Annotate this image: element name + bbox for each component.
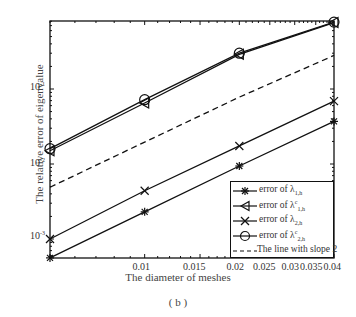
star-marker-icon	[233, 185, 259, 197]
figure-caption: ( b )	[0, 296, 356, 308]
triangle-marker-icon	[233, 200, 259, 212]
y-tick-label: 10-2	[30, 157, 45, 168]
legend-label: error of λc1,h	[259, 199, 305, 212]
legend-label: error of λc2,h	[259, 229, 305, 242]
y-tick-label: 10-1	[30, 81, 45, 92]
x-tick-label: 0.04	[324, 261, 342, 272]
legend-item-lambda1h-c: error of λc1,h	[231, 199, 335, 213]
dashed-line-icon	[233, 245, 259, 257]
legend-label: error of λ1,h	[259, 184, 302, 196]
series-line	[50, 23, 334, 151]
legend-item-lambda2h: error of λ2,h	[231, 214, 335, 228]
legend-label: error of λ2,h	[259, 214, 302, 226]
y-axis-label: The relative error of eigenvalue	[33, 29, 45, 239]
y-tick-label: 10-3	[30, 230, 45, 241]
x-axis-label: The diameter of meshes	[0, 271, 356, 283]
legend-label: The line with slope 2	[257, 244, 337, 254]
circle-marker-icon	[233, 230, 259, 242]
x-tick-label: 0.015	[183, 261, 206, 272]
legend: error of λ1,h error of λc1,h error of λ2…	[230, 181, 334, 258]
x-tick-label: 0.02	[227, 261, 245, 272]
legend-item-lambda2h-c: error of λc2,h	[231, 229, 335, 243]
x-tick-label: 0.035	[300, 261, 323, 272]
legend-item-slope-line: The line with slope 2	[231, 244, 335, 258]
x-tick-label: 0.03	[282, 261, 300, 272]
x-tick-label: 0.025	[253, 261, 276, 272]
legend-item-lambda1h: error of λ1,h	[231, 184, 335, 198]
x-marker-icon	[233, 215, 259, 227]
x-tick-label: 0.01	[133, 261, 151, 272]
